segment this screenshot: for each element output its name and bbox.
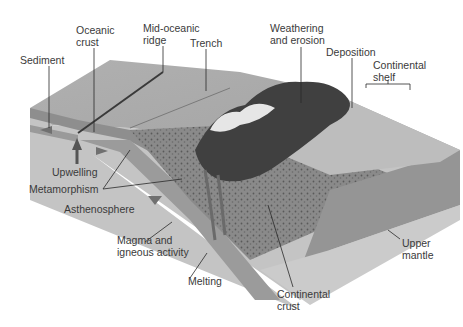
label-continental-crust: Continental crust bbox=[277, 288, 330, 312]
plate-boundary-block-diagram bbox=[0, 0, 463, 327]
label-trench: Trench bbox=[190, 37, 222, 49]
label-deposition: Deposition bbox=[326, 46, 376, 58]
label-sediment: Sediment bbox=[20, 54, 64, 66]
label-magma-igneous: Magma and igneous activity bbox=[117, 234, 189, 258]
label-melting: Melting bbox=[188, 275, 222, 287]
label-upper-mantle: Upper mantle bbox=[402, 237, 434, 261]
label-weathering-erosion: Weathering and erosion bbox=[270, 22, 325, 46]
upwelling-arrow-stem bbox=[76, 150, 79, 164]
label-asthenosphere: Asthenosphere bbox=[64, 203, 135, 215]
label-metamorphism: Metamorphism bbox=[29, 183, 98, 195]
label-continental-shelf: Continental shelf bbox=[373, 59, 426, 83]
label-oceanic-crust: Oceanic crust bbox=[76, 24, 115, 48]
label-upwelling: Upwelling bbox=[52, 166, 98, 178]
